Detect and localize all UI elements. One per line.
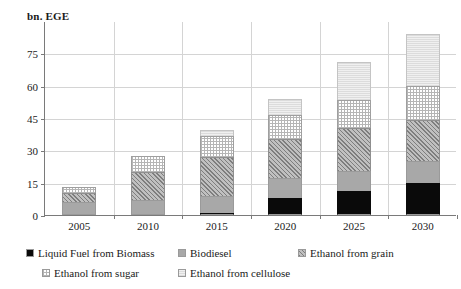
x-tick-label: 2015 [206,220,228,232]
y-tick-label: 30 [27,145,38,157]
x-tick-label: 2025 [343,220,365,232]
y-tick-mark [41,119,45,120]
bar-segment[interactable] [406,120,440,161]
bar-column[interactable] [62,187,96,215]
legend-label: Biodiesel [190,247,232,259]
bar-segment[interactable] [268,198,302,215]
legend-swatch-icon [42,269,50,277]
x-gridline [320,22,321,215]
bar-segment[interactable] [337,128,371,171]
y-axis-title: bn. EGE [27,10,69,22]
legend-swatch-icon [178,269,186,277]
bar-segment[interactable] [337,171,371,191]
bar-segment[interactable] [268,115,302,139]
bar-segment[interactable] [337,191,371,215]
legend-label: Ethanol from cellulose [190,267,290,279]
legend-item[interactable]: Liquid Fuel from Biomass [26,247,154,259]
x-gridline [388,22,389,215]
legend-item[interactable]: Ethanol from cellulose [178,267,290,279]
bar-segment[interactable] [200,213,234,215]
x-tick-mark [251,215,252,219]
x-gridline [182,22,183,215]
bar-segment[interactable] [131,156,165,172]
y-tick-mark [41,54,45,55]
bar-segment[interactable] [268,178,302,197]
y-tick-label: 15 [27,178,38,190]
bar-segment[interactable] [131,200,165,215]
x-tick-mark [457,215,458,219]
x-tick-label: 2010 [137,220,159,232]
x-tick-label: 2020 [274,220,296,232]
x-gridline [251,22,252,215]
legend-item[interactable]: Biodiesel [178,247,232,259]
x-tick-mark [114,215,115,219]
bar-column[interactable] [268,99,302,215]
bar-segment[interactable] [131,172,165,200]
bar-segment[interactable] [406,86,440,120]
bar-segment[interactable] [268,99,302,115]
legend-label: Ethanol from grain [310,247,394,259]
y-tick-label: 45 [27,113,38,125]
y-tick-label: 75 [27,48,38,60]
bar-segment[interactable] [62,193,96,202]
x-tick-mark [388,215,389,219]
legend-swatch-icon [178,249,186,257]
x-gridline [114,22,115,215]
bar-segment[interactable] [200,157,234,196]
y-tick-mark [41,216,45,217]
legend-item[interactable]: Ethanol from grain [298,247,394,259]
bar-segment[interactable] [406,161,440,183]
y-tick-label: 0 [33,210,39,222]
bar-column[interactable] [406,34,440,215]
y-tick-mark [41,87,45,88]
legend-swatch-icon [26,249,34,257]
legend-item[interactable]: Ethanol from sugar [42,267,139,279]
bar-segment[interactable] [200,196,234,213]
bar-column[interactable] [131,156,165,215]
bar-column[interactable] [337,62,371,215]
x-tick-label: 2030 [412,220,434,232]
legend-swatch-icon [298,249,306,257]
x-tick-mark [320,215,321,219]
bar-segment[interactable] [337,62,371,100]
bar-segment[interactable] [406,183,440,215]
bar-segment[interactable] [337,100,371,128]
bar-column[interactable] [200,130,234,215]
legend-label: Ethanol from sugar [54,267,139,279]
legend-label: Liquid Fuel from Biomass [38,247,154,259]
bar-segment[interactable] [268,139,302,179]
plot-area: 01530456075200520102015202020252030 [44,22,456,216]
x-tick-label: 2005 [68,220,90,232]
y-tick-mark [41,151,45,152]
bar-segment[interactable] [200,136,234,156]
y-tick-label: 60 [27,81,38,93]
chart-legend: Liquid Fuel from BiomassBiodieselEthanol… [0,245,461,289]
chart-container: bn. EGE 01530456075200520102015202020252… [0,0,461,289]
x-tick-mark [182,215,183,219]
bar-segment[interactable] [62,202,96,215]
y-tick-mark [41,184,45,185]
bar-segment[interactable] [406,34,440,86]
